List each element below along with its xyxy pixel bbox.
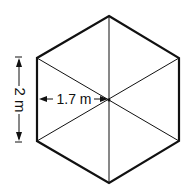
side-length-label: 2 m — [12, 87, 29, 112]
hexagon-diagram: 2 m 1.7 m — [0, 0, 189, 193]
center-point — [108, 99, 111, 102]
arrow-down-icon — [16, 132, 22, 141]
arrow-up-icon — [16, 58, 22, 67]
apothem-label: 1.7 m — [56, 91, 91, 107]
